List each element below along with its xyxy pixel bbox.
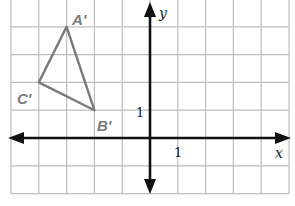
x-tick-label-1: 1	[174, 145, 182, 160]
vertex-label-c-prime: C'	[17, 90, 32, 107]
coordinate-plane: y x 1 1 A' B' C'	[0, 0, 295, 206]
y-tick-label-1: 1	[136, 105, 144, 120]
y-axis-label: y	[158, 5, 168, 21]
y-axis-down-arrow-icon	[144, 179, 156, 194]
vertex-label-a-prime: A'	[71, 11, 87, 28]
x-axis-label: x	[275, 145, 283, 161]
vertex-label-b-prime: B'	[97, 117, 112, 134]
y-axis-up-arrow-icon	[144, 2, 156, 17]
